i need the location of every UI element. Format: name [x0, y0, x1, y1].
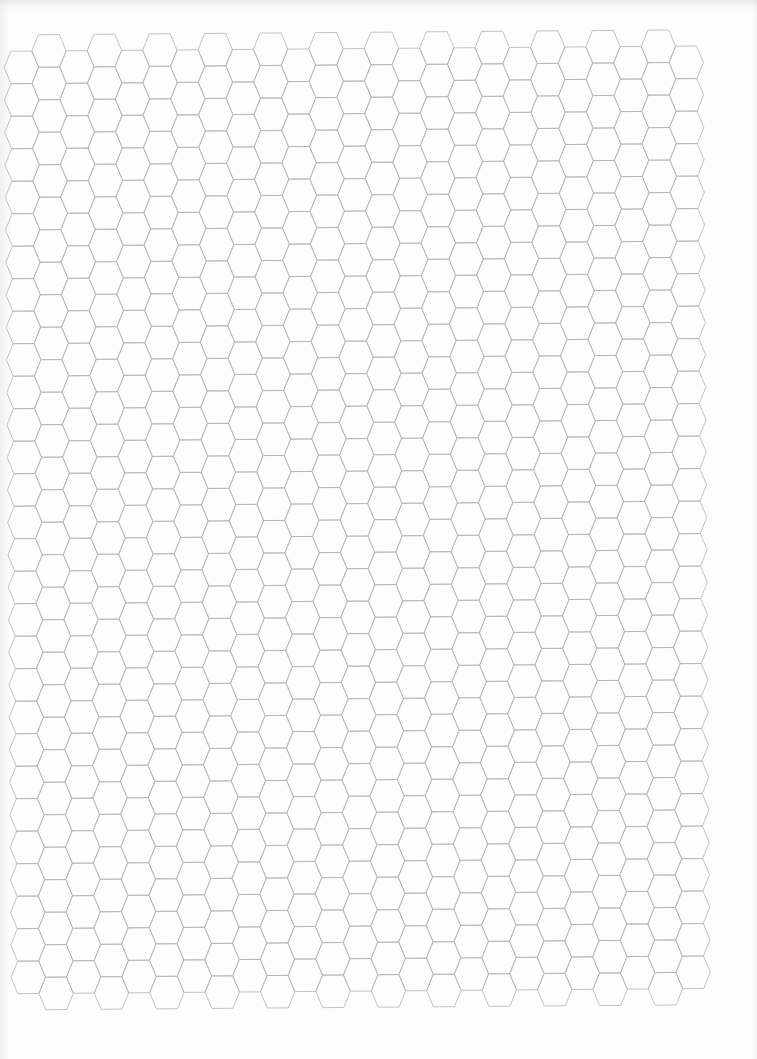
hexagon-cells — [4, 30, 710, 1010]
hexagon-lines — [4, 30, 710, 1010]
hexagon-grid — [0, 0, 757, 1059]
